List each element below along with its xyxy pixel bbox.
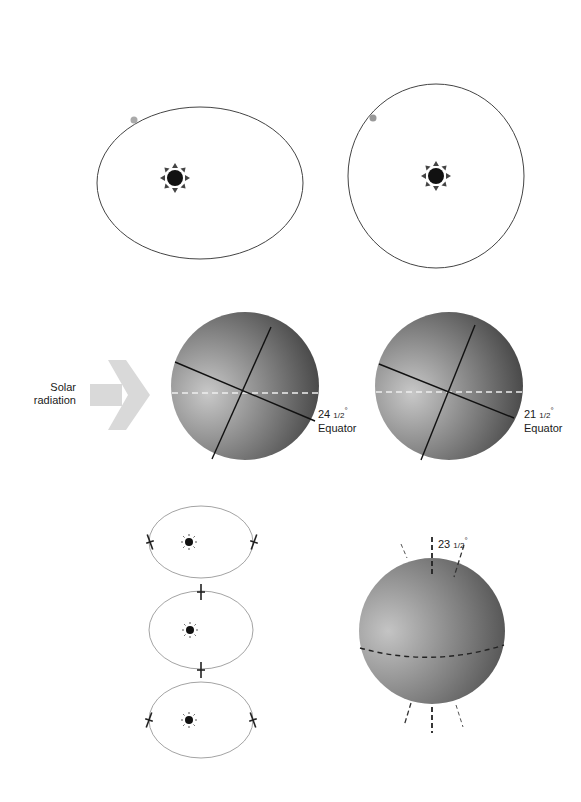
sun-icon (421, 161, 451, 191)
earth-tilt-icon (197, 662, 205, 678)
solar-radiation-label-line2: radiation (28, 394, 76, 407)
circular-orbit-panel (348, 84, 524, 268)
elliptical-orbit-panel (97, 107, 303, 259)
solar-radiation-label-line1: Solar (28, 381, 76, 394)
planet-dot-icon (370, 115, 377, 122)
globe-tilt-21-5 (375, 312, 523, 460)
sun-icon (160, 163, 190, 193)
angle-fraction: 1/2 (539, 411, 550, 420)
angle-whole: 21 (524, 408, 536, 420)
angle-label-24-5: 24 1/2° Equator (318, 404, 357, 435)
precession-globe (359, 537, 505, 733)
earth-tilt-icon (143, 711, 156, 729)
earth-tilt-icon (247, 711, 260, 729)
angle-label-21-5: 21 1/2° Equator (524, 404, 563, 435)
angle-fraction: 1/2 (453, 541, 464, 550)
globe-tilt-24-5 (171, 312, 319, 460)
precession-orbit-2 (149, 584, 253, 678)
degree-symbol: ° (464, 536, 467, 545)
earth-tilt-icon (197, 584, 205, 600)
sun-icon (181, 534, 197, 550)
sun-icon (181, 712, 197, 728)
diagram-canvas (0, 0, 581, 802)
arrow-right-icon (90, 360, 150, 430)
equator-label: Equator (524, 422, 563, 435)
earth-tilt-icon (248, 533, 261, 551)
solar-radiation-label: Solar radiation (28, 381, 76, 407)
degree-symbol: ° (550, 406, 553, 415)
sun-icon (182, 622, 198, 638)
degree-symbol: ° (344, 406, 347, 415)
precession-orbit-1 (144, 506, 261, 578)
angle-fraction: 1/2 (333, 411, 344, 420)
angle-whole: 23 (438, 538, 450, 550)
planet-dot-icon (131, 117, 138, 124)
precession-orbit-3 (143, 682, 260, 758)
angle-label-23-5: 23 1/2° (438, 534, 468, 552)
equator-label: Equator (318, 422, 357, 435)
angle-whole: 24 (318, 408, 330, 420)
